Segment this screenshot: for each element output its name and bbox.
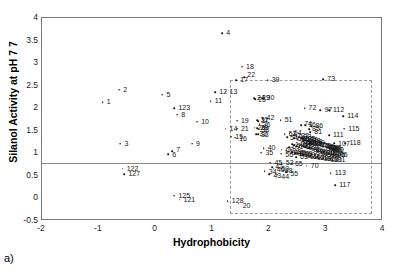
data-point[interactable] xyxy=(326,158,328,160)
data-point[interactable] xyxy=(328,110,330,112)
data-point[interactable] xyxy=(281,149,283,151)
data-point[interactable] xyxy=(227,200,229,202)
data-point[interactable] xyxy=(334,184,336,186)
data-point-label: 131 xyxy=(334,156,346,163)
data-point[interactable] xyxy=(167,153,169,155)
data-point[interactable] xyxy=(330,172,332,174)
data-point[interactable] xyxy=(122,168,124,170)
data-point[interactable] xyxy=(280,153,282,155)
data-point[interactable] xyxy=(286,136,288,138)
data-point[interactable] xyxy=(174,107,176,109)
data-point[interactable] xyxy=(118,89,120,91)
data-point[interactable] xyxy=(162,94,164,96)
data-point-label: 127 xyxy=(128,170,140,177)
x-tick-label: 1 xyxy=(197,223,227,233)
data-point[interactable] xyxy=(291,152,293,154)
data-point[interactable] xyxy=(294,138,296,140)
data-point[interactable] xyxy=(286,150,288,152)
data-point[interactable] xyxy=(281,168,283,170)
data-point[interactable] xyxy=(124,173,126,175)
data-point[interactable] xyxy=(236,120,238,122)
data-point[interactable] xyxy=(344,128,346,130)
x-tick-label: -1 xyxy=(83,223,113,233)
data-point[interactable] xyxy=(304,107,306,109)
data-point[interactable] xyxy=(238,203,240,205)
data-point[interactable] xyxy=(270,162,272,164)
data-point[interactable] xyxy=(323,79,325,81)
data-point[interactable] xyxy=(102,102,104,104)
data-point[interactable] xyxy=(280,119,282,121)
plot-area[interactable]: 4181722397325121311112381019142115162425… xyxy=(42,18,381,219)
data-point[interactable] xyxy=(230,136,232,138)
data-point[interactable] xyxy=(328,134,330,136)
data-point[interactable] xyxy=(258,97,260,99)
data-point-label: 10 xyxy=(201,118,209,125)
data-point[interactable] xyxy=(236,79,238,81)
data-point[interactable] xyxy=(171,150,173,152)
data-point[interactable] xyxy=(257,120,259,122)
data-point[interactable] xyxy=(323,157,325,159)
data-point[interactable] xyxy=(263,147,265,149)
x-tick-label: 3 xyxy=(310,223,340,233)
data-point-label: 73 xyxy=(327,75,335,82)
data-point-label: 4 xyxy=(226,29,230,36)
data-point-label: 18 xyxy=(246,63,254,70)
data-point-label: 72 xyxy=(309,104,317,111)
data-point[interactable] xyxy=(215,92,217,94)
data-point[interactable] xyxy=(300,125,302,127)
x-axis-title: Hydrophobicity xyxy=(41,236,382,248)
data-point-label: 115 xyxy=(348,125,359,132)
data-point[interactable] xyxy=(254,127,256,129)
data-point[interactable] xyxy=(284,134,286,136)
data-point[interactable] xyxy=(320,157,322,159)
data-point[interactable] xyxy=(236,128,238,130)
data-point[interactable] xyxy=(290,163,292,165)
data-point-label: 51 xyxy=(285,116,293,123)
x-tick-label: -2 xyxy=(26,223,56,233)
data-point-label: 8 xyxy=(181,111,185,118)
data-point[interactable] xyxy=(286,171,288,173)
data-point[interactable] xyxy=(306,165,308,167)
data-point[interactable] xyxy=(288,151,290,153)
data-point[interactable] xyxy=(316,157,318,159)
data-point[interactable] xyxy=(320,110,322,112)
data-point[interactable] xyxy=(176,114,178,116)
data-point-label: 1 xyxy=(107,98,111,105)
data-point[interactable] xyxy=(308,129,310,131)
data-point[interactable] xyxy=(196,121,198,123)
panel-label: a) xyxy=(4,252,14,264)
data-point[interactable] xyxy=(210,100,212,102)
data-point[interactable] xyxy=(225,91,227,93)
data-point[interactable] xyxy=(244,76,246,78)
scatter-plot-figure: -0.500.511.522.533.54 Silanol Activity a… xyxy=(0,0,393,274)
data-point[interactable] xyxy=(254,98,256,100)
data-point[interactable] xyxy=(261,152,263,154)
data-point[interactable] xyxy=(342,116,344,118)
data-point-label: 121 xyxy=(184,196,196,203)
data-point-label: 44 xyxy=(281,173,289,180)
data-point[interactable] xyxy=(276,174,278,176)
data-point[interactable] xyxy=(191,143,193,145)
data-point-label: 22 xyxy=(247,71,255,78)
data-point[interactable] xyxy=(120,143,122,145)
data-point[interactable] xyxy=(262,97,264,99)
data-point-label: 3 xyxy=(124,140,128,147)
data-point[interactable] xyxy=(304,125,306,127)
data-point[interactable] xyxy=(267,79,269,81)
data-point[interactable] xyxy=(313,156,315,158)
data-point[interactable] xyxy=(221,33,223,35)
data-point[interactable] xyxy=(278,167,280,169)
data-point[interactable] xyxy=(225,128,227,130)
data-point[interactable] xyxy=(234,137,236,139)
data-point-label: 35 xyxy=(265,149,273,156)
data-point[interactable] xyxy=(269,173,271,175)
data-point[interactable] xyxy=(294,153,296,155)
data-point[interactable] xyxy=(174,195,176,197)
data-point[interactable] xyxy=(241,66,243,68)
data-point[interactable] xyxy=(179,199,181,201)
data-point[interactable] xyxy=(330,158,332,160)
data-point[interactable] xyxy=(257,134,259,136)
data-point[interactable] xyxy=(264,170,266,172)
data-point-label: 114 xyxy=(347,112,358,119)
data-point-label: 16 xyxy=(239,135,247,142)
